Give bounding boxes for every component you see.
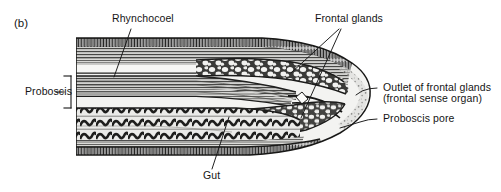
label-gut: Gut	[203, 170, 220, 182]
label-proboscis-pore: Proboscis pore	[383, 113, 454, 125]
label-proboscis: Proboscis	[25, 86, 72, 98]
label-rhynchocoel: Rhynchocoel	[112, 13, 174, 25]
label-frontal-sense-organ: (frontal sense organ)	[383, 93, 482, 105]
label-frontal-glands: Frontal glands	[315, 13, 383, 25]
panel-letter: (b)	[14, 17, 28, 29]
figure-panel-b: (b) Rhynchocoel Frontal glands Proboscis…	[0, 0, 501, 192]
